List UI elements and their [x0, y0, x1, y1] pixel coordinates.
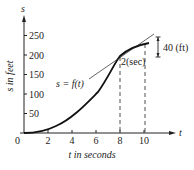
x-tick-label: 6: [94, 135, 99, 146]
x-tick-label: 2: [46, 135, 51, 146]
run-label: 2(sec): [121, 56, 145, 68]
rise-label: 40 (ft): [163, 42, 188, 54]
x-tick-label: 8: [118, 135, 123, 146]
bracket-arrow-down-icon: [157, 53, 160, 57]
y-tick-label: 50: [29, 108, 39, 119]
curve-label: s = f(t): [56, 78, 85, 90]
y-axis-title: s in feet: [4, 60, 15, 91]
y-tick-label: 200: [29, 50, 44, 61]
y-tick-label: 150: [29, 69, 44, 80]
x-axis-title: t in seconds: [68, 149, 115, 160]
bracket-arrow-up-icon: [157, 37, 160, 41]
x-tick-label: 4: [70, 135, 75, 146]
y-tick-label: 100: [29, 89, 44, 100]
x-axis-symbol: t: [179, 127, 182, 138]
origin-label: 0: [15, 135, 20, 146]
position-time-graph: 50 100 150 200 250 0 2 4 6 8 10 s t t in…: [0, 0, 194, 170]
x-tick-label: 10: [139, 135, 149, 146]
y-axis-symbol: s: [21, 3, 25, 14]
x-axis-arrow-icon: [169, 131, 176, 135]
y-axis-arrow-icon: [22, 15, 26, 22]
y-tick-label: 250: [29, 30, 44, 41]
